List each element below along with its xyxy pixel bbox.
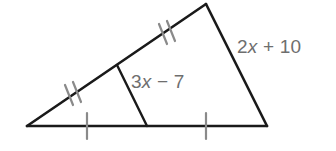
triangle-side-right: [206, 4, 267, 126]
midsegment-label-variable: x: [142, 71, 152, 92]
triangle-outline: [27, 4, 267, 126]
midsegment-label-constant: 7: [174, 71, 185, 92]
side-label-right-operator: +: [263, 36, 274, 57]
side-label-right-constant: 10: [280, 36, 302, 57]
midsegment-label-operator: −: [157, 71, 168, 92]
midsegment-label: 3x − 7: [131, 72, 185, 91]
side-label-right: 2x + 10: [237, 37, 301, 56]
side-label-right-variable: x: [248, 36, 258, 57]
midsegment-label-coefficient: 3: [131, 71, 142, 92]
upper-left-side-double-tick: [159, 21, 175, 44]
geometry-figure: 2x + 10 3x − 7: [0, 0, 336, 151]
side-label-right-coefficient: 2: [237, 36, 248, 57]
